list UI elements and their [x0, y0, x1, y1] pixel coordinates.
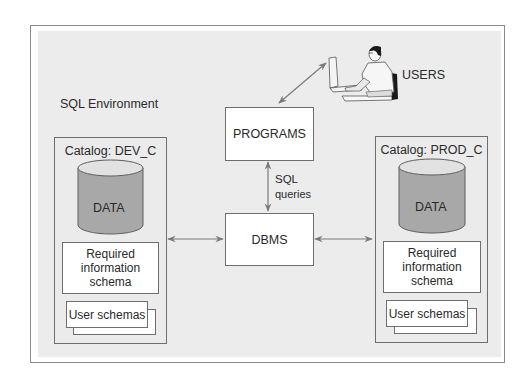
sql-label: SQL	[275, 173, 298, 185]
info-schema-line3: schema	[89, 275, 131, 289]
info-schema-line1: Required	[86, 247, 135, 261]
arrow-users-programs	[279, 63, 326, 103]
data-label: DATA	[93, 201, 124, 215]
user-schemas-box: User schemas	[66, 301, 148, 328]
person-at-computer-icon	[329, 46, 398, 101]
user-schemas-label: User schemas	[389, 307, 466, 321]
queries-label: queries	[275, 188, 311, 200]
info-schema-line3: schema	[411, 274, 453, 288]
info-schema-box: Required information schema	[383, 241, 481, 293]
data-label: DATA	[415, 200, 446, 214]
info-schema-line1: Required	[408, 246, 457, 260]
info-schema-line2: information	[81, 261, 140, 275]
user-schemas-label: User schemas	[69, 308, 146, 322]
info-schema-line2: information	[402, 260, 461, 274]
users-label: USERS	[402, 68, 445, 82]
user-schemas-box: User schemas	[386, 300, 468, 327]
database-cylinder-icon	[399, 159, 465, 233]
dbms-label: DBMS	[251, 233, 287, 247]
programs-label: PROGRAMS	[233, 127, 306, 141]
database-cylinder-icon	[78, 160, 143, 234]
dbms-box: DBMS	[225, 213, 314, 266]
programs-box: PROGRAMS	[225, 107, 314, 161]
info-schema-box: Required information schema	[62, 242, 159, 294]
